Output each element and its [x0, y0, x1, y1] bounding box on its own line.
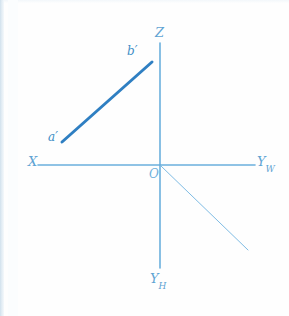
segment-a-b-prime-line [62, 62, 152, 142]
axis-label-yh-sub: H [159, 281, 167, 291]
axis-label-yw-sub: W [266, 164, 275, 174]
axis-label-x-main: X [28, 154, 37, 169]
segment-group [62, 62, 152, 142]
axis-label-z: Z [155, 26, 164, 43]
axis-lines [38, 43, 255, 268]
axis-label-yw: YW [257, 155, 275, 172]
projection-diagram [0, 0, 289, 316]
axis-label-yh: YH [150, 272, 166, 289]
point-label-b-prime: b′ [127, 45, 137, 57]
axis-label-z-main: Z [155, 25, 164, 40]
axis-label-x: X [28, 155, 37, 172]
figure-canvas: a′ b′ X YW Z YH O [0, 0, 289, 316]
axis-label-yh-main: Y [150, 271, 159, 286]
origin-label: O [149, 168, 159, 180]
point-label-a-prime: a′ [48, 131, 58, 143]
axis-label-yw-main: Y [257, 154, 266, 169]
yh-diagonal-axis-line [161, 166, 248, 250]
